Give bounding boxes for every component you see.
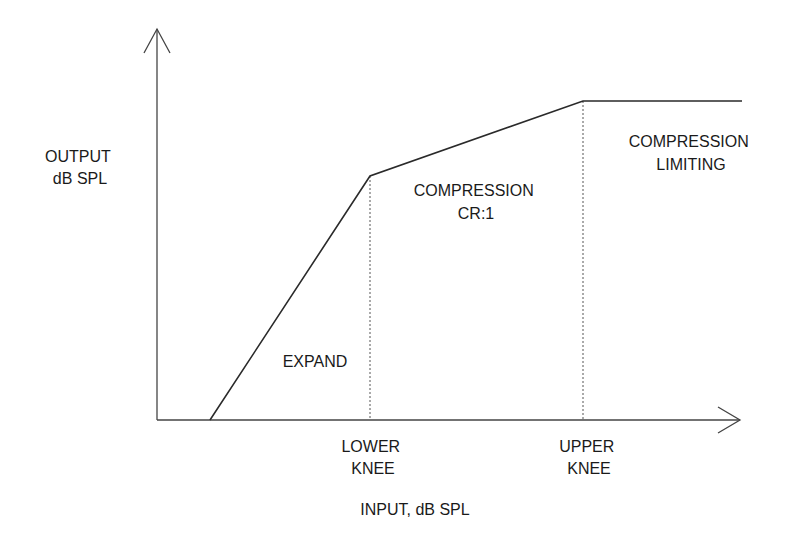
region-label-limiting: COMPRESSION LIMITING: [629, 133, 753, 173]
lower-knee-label: LOWER KNEE: [341, 438, 404, 477]
region-label-expand: EXPAND: [283, 353, 348, 370]
upper-knee-label: UPPER KNEE: [559, 438, 619, 477]
knee-guides: [370, 101, 583, 420]
compression-io-diagram: OUTPUT dB SPL EXPAND COMPRESSION CR:1 CO…: [0, 0, 797, 544]
region-label-compression: COMPRESSION CR:1: [414, 182, 538, 222]
y-axis-label: OUTPUT dB SPL: [45, 148, 115, 187]
x-axis-label: INPUT, dB SPL: [360, 501, 469, 518]
x-axis: [157, 407, 740, 433]
y-axis: [144, 29, 170, 420]
